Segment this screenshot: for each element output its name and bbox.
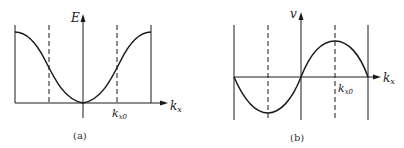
y-axis-label-E: E: [70, 11, 80, 25]
y-axis-arrow-icon: [81, 14, 86, 22]
caption-a: (a): [73, 130, 87, 141]
x-axis-label-kx: kx: [170, 99, 182, 114]
panel-a: [15, 14, 168, 118]
figure: E kx kx0 (a) v kx kx0 (b): [0, 0, 404, 148]
panel-b: [234, 12, 381, 120]
y-axis-arrow-icon: [299, 12, 304, 20]
tick-label-kx0: kx0: [338, 82, 354, 96]
caption-b: (b): [290, 132, 304, 143]
x-axis-label-kx: kx: [383, 71, 395, 86]
tick-label-kx0: kx0: [112, 107, 128, 121]
y-axis-label-v: v: [290, 7, 297, 21]
x-axis-arrow-icon: [160, 101, 168, 106]
x-axis-arrow-icon: [373, 75, 381, 80]
